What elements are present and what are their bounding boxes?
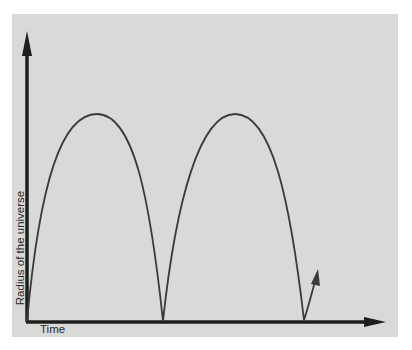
x-axis xyxy=(26,317,386,327)
y-axis-arrow-icon xyxy=(22,31,32,56)
expansion-arrow-icon xyxy=(311,269,320,286)
radius-curve xyxy=(27,114,316,321)
chart-plot xyxy=(0,0,412,350)
y-axis-label: Radius of the universe xyxy=(14,191,26,305)
x-axis-label: Time xyxy=(40,323,65,335)
x-axis-arrow-icon xyxy=(364,317,386,327)
